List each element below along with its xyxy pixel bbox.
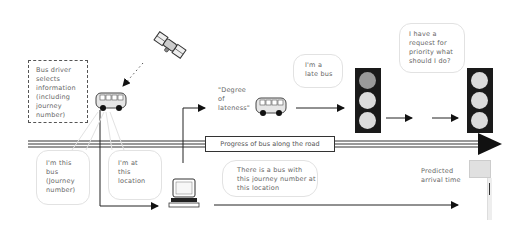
late-bus-bubble: I'm a late bus (293, 54, 343, 88)
priority-request-bubble: I have a request for priority what shoul… (399, 23, 465, 73)
bus-stop-sign-icon (469, 160, 491, 178)
priority-request-text: I have a request for priority what shoul… (409, 30, 461, 66)
road-progress-label: Progress of bus along the road (205, 136, 335, 152)
traffic-light-icon (355, 68, 381, 133)
late-bus-bubble-text: I'm a late bus (305, 61, 335, 79)
predicted-arrival-label: Predicted arrival time (421, 167, 465, 185)
bus-stop-pole (487, 178, 492, 220)
traffic-light-icon-2 (467, 68, 493, 133)
